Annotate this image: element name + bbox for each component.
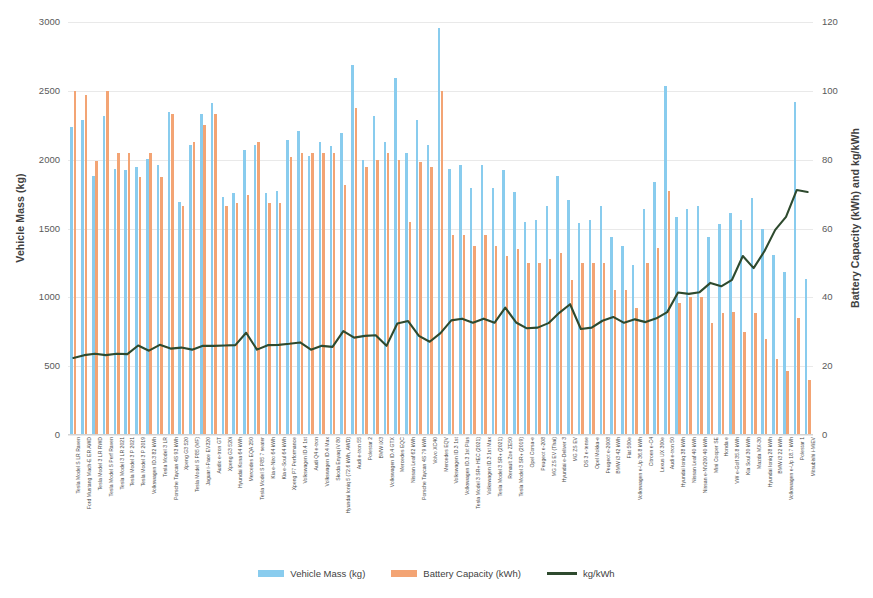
y-axis-right-tick-label: 60 — [822, 223, 862, 234]
x-axis-tick-label: Tesla Model S Perf Raven — [108, 437, 114, 496]
x-axis-tick-label: Hyundai Ioniq 5 (72.6 kWh, AWD) — [345, 437, 351, 514]
x-axis-tick-label: Peugeot e-208 — [540, 437, 546, 471]
legend-item[interactable]: Vehicle Mass (kg) — [258, 568, 365, 579]
x-axis-tick-label: MG ZS EV (Thai) — [551, 437, 557, 476]
x-axis-tick-label: Nissan Leaf 62 kWh — [410, 437, 416, 483]
x-axis-tick-label: Lexus UX 300e — [659, 437, 665, 472]
x-axis-tick-label: BMW i3 22 kWh — [777, 437, 783, 474]
x-axis-tick-label: Volkswagen ID.3 1st Max — [486, 437, 492, 495]
legend-label: kg/kWh — [583, 568, 615, 579]
legend-label: Battery Capacity (kWh) — [423, 568, 521, 579]
y-axis-left-tick-label: 0 — [20, 429, 60, 440]
x-axis-tick-label: Tesla Model S LR Raven — [75, 437, 81, 494]
x-axis-tick-label: Audi Q4 e-tron — [313, 437, 319, 470]
gridline — [68, 435, 813, 436]
x-axis-tick-label: Mercedes EQA 250 — [248, 437, 254, 482]
x-axis-tick-label: Hyundai e-Deliver 3 — [561, 437, 567, 482]
x-axis-tick-label: Volkswagen ID.3 1st — [453, 437, 459, 484]
x-axis-tick-label: Tesla Model 3 P 2021 — [129, 437, 135, 486]
x-axis-tick-label: Volkswagen e-Up 18.7 kWh — [788, 437, 794, 500]
y-axis-left-tick-label: 1500 — [20, 223, 60, 234]
x-axis-tick-label: Mazda MX-30 — [756, 437, 762, 469]
y-axis-left-tick-label: 1000 — [20, 291, 60, 302]
x-axis-tick-label: DS 3 e-tense — [583, 437, 589, 467]
x-axis-tick-label: Volkswagen ID.4 1st — [302, 437, 308, 484]
legend-color-swatch — [391, 570, 417, 577]
kg-per-kwh-line — [73, 190, 807, 358]
legend-label: Vehicle Mass (kg) — [290, 568, 365, 579]
x-axis-tick-label: Skoda Enyaq iV 80 — [335, 437, 341, 481]
x-axis-tick-label: Kia e-Soul 64 kWh — [281, 437, 287, 480]
x-axis-tick-label: Opel Mokka-e — [594, 437, 600, 469]
y-axis-right-tick-label: 20 — [822, 360, 862, 371]
x-axis-tick-label: Citroen e-C4 — [648, 437, 654, 466]
plot-area — [68, 22, 813, 435]
x-axis-tick-label: Fiat 500e — [626, 437, 632, 458]
x-axis-tick-label: Mitsubishi i-MiEV — [810, 437, 816, 476]
x-axis-tick-label: Volkswagen ID.4 GTX — [389, 437, 395, 487]
x-axis-tick-label: Tesla Model 3 LR RWD — [97, 437, 103, 490]
x-axis-tick-label: Nissan Leaf 40 kWh — [691, 437, 697, 483]
x-axis-labels: Tesla Model S LR RavenFord Mustang Mach-… — [68, 437, 813, 549]
x-axis-tick-label: BMW i3 42 kWh — [615, 437, 621, 474]
x-axis-tick-label: Porsche Taycan 4S 79 kWh — [421, 437, 427, 500]
x-axis-tick-label: Volvo XC40 — [432, 437, 438, 464]
x-axis-tick-label: Tesla Model 3 P 2019 — [140, 437, 146, 486]
x-axis-tick-label: Tesla Model 3 LR — [162, 437, 168, 477]
x-axis-tick-label: Tesla Model S P85 7 seater — [259, 437, 265, 500]
x-axis-tick-label: Nissan e-NV200 40 kWh — [702, 437, 708, 493]
x-axis-tick-label: Peugeot e-2008 — [605, 437, 611, 474]
x-axis-tick-label: Tesla Model 3 SR+ (2021) — [497, 437, 503, 497]
x-axis-tick-label: MG ZS EV — [572, 437, 578, 462]
x-axis-tick-label: Honda e — [723, 437, 729, 456]
x-axis-tick-label: Polestar 1 — [799, 437, 805, 460]
legend-line-swatch — [547, 572, 577, 575]
x-axis-tick-label: Tesla Model 3 LR 2021 — [119, 437, 125, 490]
y-axis-right-tick-label: 120 — [822, 16, 862, 27]
x-axis-tick-label: VW e-Golf 35.8 kWh — [734, 437, 740, 484]
x-axis-tick-label: Volkswagen ID.4 Max — [324, 437, 330, 486]
legend-item[interactable]: Battery Capacity (kWh) — [391, 568, 521, 579]
y-axis-right-tick-label: 100 — [822, 85, 862, 96]
x-axis-tick-label: Mini Cooper SE — [713, 437, 719, 473]
x-axis-tick-label: Hyundai Ioniq 28 kWh — [767, 437, 773, 487]
x-axis-tick-label: Volkswagen ID.3 1st Plus — [464, 437, 470, 495]
x-axis-tick-label: Hyundai Ioniq 38 kWh — [680, 437, 686, 487]
y-axis-left-tick-label: 500 — [20, 360, 60, 371]
x-axis-tick-label: Mercedes EQC — [399, 437, 405, 472]
line-series-layer — [68, 22, 813, 435]
legend-item[interactable]: kg/kWh — [547, 568, 615, 579]
y-axis-left-tick-label: 3000 — [20, 16, 60, 27]
x-axis-tick-label: BMW iX3 — [378, 437, 384, 458]
x-axis-tick-label: Xpeng G3 520i — [227, 437, 233, 471]
x-axis-tick-label: Kia Soul 30 kWh — [745, 437, 751, 475]
y-axis-right-tick-label: 80 — [822, 154, 862, 165]
x-axis-tick-label: Tesla Model 3 SR+ HEC (2021) — [475, 437, 481, 509]
x-axis-tick-label: Hyundai Kona 64 kWh — [237, 437, 243, 488]
x-axis-tick-label: Ford Mustang Mach-E ER AWD — [86, 437, 92, 509]
x-axis-tick-label: Porsche Taycan 4S 93 kWh — [173, 437, 179, 500]
x-axis-tick-label: Mercedes EQV — [443, 437, 449, 472]
x-axis-tick-label: Tesla Model S P85 (MF) — [194, 437, 200, 492]
x-axis-tick-label: Tesla Model 3 SR+ (2019) — [518, 437, 524, 497]
y-axis-left-tick-label: 2500 — [20, 85, 60, 96]
x-axis-tick-label: Opel Corsa-e — [529, 437, 535, 468]
x-axis-tick-label: Renault Zoe ZE50 — [507, 437, 513, 479]
chart-container: Vehicle Mass (kg) Battery Capacity (kWh)… — [0, 0, 873, 598]
y-axis-right-tick-label: 40 — [822, 291, 862, 302]
x-axis-tick-label: Volkswagen ID.3 82 kWh — [151, 437, 157, 494]
y-axis-right-tick-label: 0 — [822, 429, 862, 440]
x-axis-tick-label: Xpeng G3 520 — [183, 437, 189, 470]
x-axis-tick-label: Audi e-tron 50 — [669, 437, 675, 469]
x-axis-baseline — [68, 434, 813, 435]
y-axis-left-tick-label: 2000 — [20, 154, 60, 165]
chart-legend: Vehicle Mass (kg)Battery Capacity (kWh)k… — [0, 568, 873, 579]
x-axis-tick-label: Volkswagen e-Up 36.8 kWh — [637, 437, 643, 500]
x-axis-tick-label: Audio e-tron GT — [216, 437, 222, 474]
x-axis-tick-label: Jaguar i-Pace EV320 — [205, 437, 211, 486]
x-axis-tick-label: Audi e-tron 55 — [356, 437, 362, 469]
x-axis-tick-label: Polestar 2 — [367, 437, 373, 460]
x-axis-tick-label: Kia e-Niro 64 kWh — [270, 437, 276, 479]
x-axis-tick-label: Xpeng P7 Performance — [291, 437, 297, 490]
legend-color-swatch — [258, 570, 284, 577]
